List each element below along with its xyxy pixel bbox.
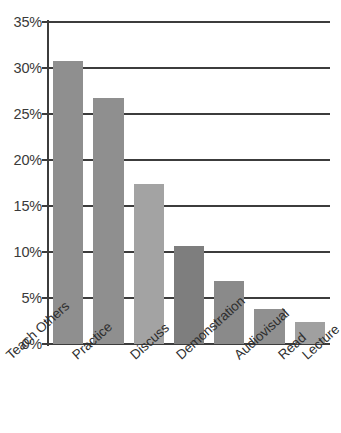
y-tick-label: 5% (0, 291, 42, 306)
y-tick-label: 15% (0, 199, 42, 214)
x-axis-tick-labels: Teach OthersPracticeDiscussDemonstration… (0, 344, 341, 433)
y-tick-mark (42, 159, 48, 161)
y-tick-mark (42, 113, 48, 115)
bar (134, 184, 164, 344)
bar (93, 98, 123, 344)
y-tick-label: 20% (0, 153, 42, 168)
y-tick-label: 25% (0, 107, 42, 122)
y-tick-mark (42, 21, 48, 23)
y-tick-label: 30% (0, 61, 42, 76)
y-tick-mark (42, 343, 48, 345)
bars-layer (48, 22, 330, 344)
y-tick-mark (42, 297, 48, 299)
y-tick-label: 10% (0, 245, 42, 260)
y-tick-mark (42, 67, 48, 69)
y-tick-label: 35% (0, 15, 42, 30)
y-tick-mark (42, 251, 48, 253)
bar-chart: 0%5%10%15%20%25%30%35% Teach OthersPract… (0, 0, 341, 433)
y-tick-mark (42, 205, 48, 207)
